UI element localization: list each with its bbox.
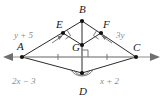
- vertex-label-B: B: [79, 3, 86, 15]
- vertex-dot-C: [134, 55, 138, 59]
- edge-label-AB: y + 5: [13, 30, 34, 40]
- vertex-label-G: G: [72, 41, 80, 53]
- vertex-dot-D: [80, 71, 84, 75]
- vertex-dot-A: [20, 55, 24, 59]
- vertex-dot-G: [80, 43, 84, 47]
- vertex-dot-E: [61, 31, 65, 35]
- vertex-label-D: D: [78, 85, 87, 97]
- vertex-label-A: A: [16, 40, 24, 52]
- axis-right-arrowhead: [150, 53, 160, 61]
- edge-label-DC: x + 2: [99, 76, 120, 86]
- vertex-label-E: E: [55, 18, 63, 30]
- vertex-label-F: F: [102, 18, 110, 30]
- vertex-dot-B: [80, 19, 84, 23]
- edge-label-AD: 2x − 3: [12, 76, 36, 86]
- edge-label-BC: 3y: [115, 30, 125, 40]
- vertex-label-C: C: [133, 41, 141, 53]
- right-angle-mark-G: [82, 50, 88, 57]
- geometry-diagram-svg: A B C D E F G y + 5 3y 2x − 3 x + 2: [0, 0, 163, 100]
- vertex-dot-F: [99, 31, 103, 35]
- segment-CD: [82, 57, 136, 73]
- axis-left-arrowhead: [3, 53, 13, 61]
- geometry-figure: A B C D E F G y + 5 3y 2x − 3 x + 2: [0, 0, 163, 100]
- segment-DA: [22, 57, 82, 73]
